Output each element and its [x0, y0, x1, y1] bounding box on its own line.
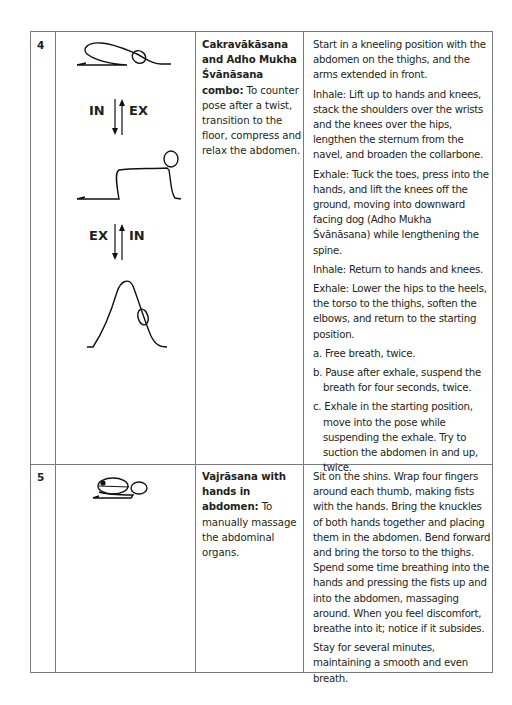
- exhale-label: EX: [129, 103, 148, 118]
- pose-table: 4 IN EX EX IN Cakra: [30, 31, 493, 673]
- child-pose-figure-icon: [71, 40, 191, 70]
- column-divider: [195, 32, 196, 672]
- pose-name: Vajrāsana with hands in abdomen: To manu…: [202, 469, 306, 560]
- pose-title: Vajrāsana with hands in abdomen:: [202, 471, 286, 512]
- row-number: 4: [37, 39, 44, 51]
- variation-item: a. Free breath, twice.: [313, 346, 491, 361]
- inhale-label: IN: [129, 228, 145, 243]
- variation-item: c. Exhale in the starting position, move…: [313, 399, 491, 475]
- variation-item: b. Pause after exhale, suspend the breat…: [313, 365, 491, 395]
- row-number: 5: [37, 471, 44, 483]
- column-divider: [55, 32, 56, 672]
- instruction-step: Sit on the shins. Wrap four fingers arou…: [313, 469, 491, 636]
- instruction-step: Inhale: Lift up to hands and knees, stac…: [313, 87, 491, 163]
- pose-instructions: Start in a kneeling position with the ab…: [313, 37, 491, 479]
- vajrasana-hands-abdomen-figure-icon: [89, 472, 159, 502]
- instruction-step: Inhale: Return to hands and knees.: [313, 262, 491, 277]
- pose-name: Cakravākāsana and Adho Mukha Śvānāsana c…: [202, 37, 306, 159]
- instruction-step: Exhale: Tuck the toes, press into the ha…: [313, 167, 491, 258]
- up-down-arrows-icon: [112, 97, 126, 137]
- up-down-arrows-icon: [112, 222, 126, 262]
- downward-dog-figure-icon: [81, 272, 181, 352]
- inhale-label: IN: [89, 103, 105, 118]
- instruction-step: Stay for several minutes, maintaining a …: [313, 640, 491, 686]
- exhale-label: EX: [89, 228, 108, 243]
- instruction-step: Exhale: Lower the hips to the heels, the…: [313, 281, 491, 342]
- pose-instructions: Sit on the shins. Wrap four fingers arou…: [313, 469, 491, 690]
- instruction-step: Start in a kneeling position with the ab…: [313, 37, 491, 83]
- hands-and-knees-figure-icon: [71, 142, 191, 204]
